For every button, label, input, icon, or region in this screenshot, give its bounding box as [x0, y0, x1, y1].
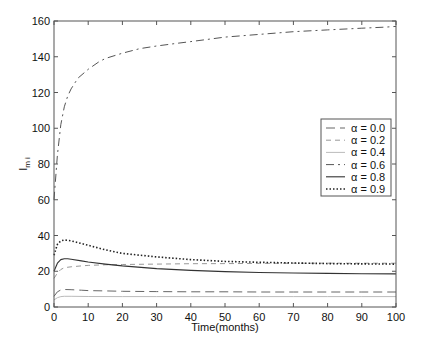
- legend-label: α = 0.6: [351, 159, 385, 171]
- y-axis-label: Im i: [17, 157, 32, 171]
- y-tick-label: 40: [38, 230, 50, 242]
- x-tick-label: 0: [51, 311, 57, 323]
- y-tick-label: 160: [32, 15, 50, 27]
- legend-label: α = 0.2: [351, 134, 385, 146]
- legend-label: α = 0.9: [351, 183, 385, 195]
- x-tick-label: 80: [321, 311, 333, 323]
- series-line-0: [54, 290, 396, 297]
- x-tick-label: 30: [150, 311, 162, 323]
- y-tick-label: 20: [38, 265, 50, 277]
- y-tick-label: 80: [38, 158, 50, 170]
- legend: α = 0.0α = 0.2α = 0.4α = 0.6α = 0.8α = 0…: [321, 119, 391, 196]
- x-tick-label: 10: [82, 311, 94, 323]
- legend-label: α = 0.8: [351, 171, 385, 183]
- legend-label: α = 0.0: [351, 122, 385, 134]
- y-tick-label: 120: [32, 87, 50, 99]
- y-tick-label: 100: [32, 122, 50, 134]
- x-axis-label: Time(months): [191, 321, 258, 333]
- y-axis-label-subscript: m i: [23, 157, 32, 168]
- legend-label: α = 0.4: [351, 146, 385, 158]
- series-line-5: [54, 240, 396, 264]
- y-tick-label: 0: [44, 301, 50, 313]
- series-line-2: [54, 296, 396, 300]
- y-tick-label: 60: [38, 194, 50, 206]
- y-tick-label: 140: [32, 51, 50, 63]
- series-line-1: [54, 263, 396, 278]
- x-tick-label: 90: [356, 311, 368, 323]
- line-chart: 0102030405060708090100 02040608010012014…: [0, 0, 422, 346]
- y-axis-label-main: Im i: [17, 157, 32, 171]
- x-tick-label: 100: [387, 311, 405, 323]
- x-tick-label: 70: [287, 311, 299, 323]
- x-tick-label: 20: [116, 311, 128, 323]
